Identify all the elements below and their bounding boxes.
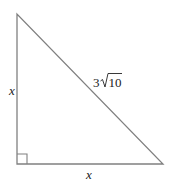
triangle-shape [17, 14, 163, 164]
bottom-leg-label: x [85, 167, 92, 182]
hypotenuse-coefficient: 3 [93, 75, 100, 90]
hypotenuse-label: 3 10 [93, 74, 122, 91]
left-leg-label: x [8, 83, 15, 98]
right-triangle-diagram: x x 3 10 [0, 0, 171, 186]
hypotenuse-radicand: 10 [109, 75, 122, 90]
right-angle-marker [17, 154, 27, 164]
